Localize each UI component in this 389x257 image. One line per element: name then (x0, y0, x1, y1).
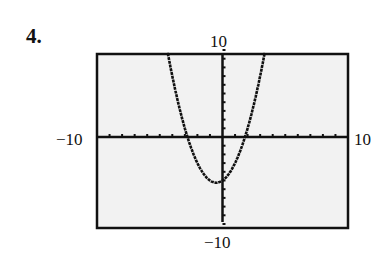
graph-plot (0, 0, 389, 257)
